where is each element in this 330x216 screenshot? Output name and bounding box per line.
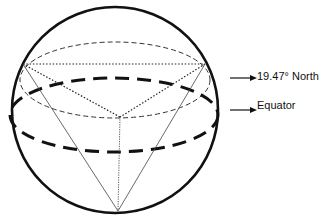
tetrahedron-vertical-edge [118,117,120,211]
tetrahedron-base-triangle [23,64,205,117]
equator-arrow-icon [230,107,257,113]
north-latitude-label: 19.47° North [257,70,319,82]
latitude-circle [20,42,210,118]
equator-ellipse [10,78,218,152]
north-arrow-icon [230,75,257,81]
sphere-outline [12,7,218,213]
equator-label: Equator [257,99,296,111]
